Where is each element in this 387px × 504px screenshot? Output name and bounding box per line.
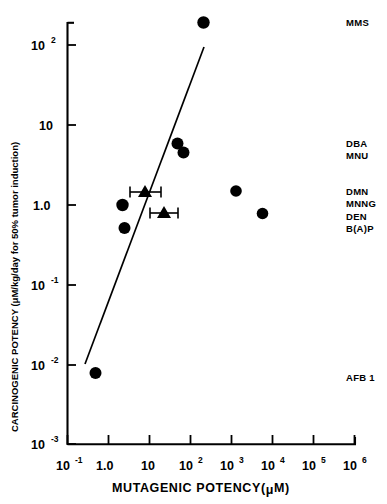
y-ticklabel-1e2: 10 2 [31,35,56,53]
data-point-afb1 [90,367,102,379]
data-point-bap [119,222,131,234]
y-ticklabel-1e-2-base: 10 [31,359,45,373]
compound-labels: MMS DBA MNU DMN MNNG DEN B(A)P AFB 1 [346,17,376,383]
x-axis-ticks [68,435,355,444]
y-ticklabel-1e-3-base: 10 [31,438,45,452]
x-axis-title: MUTAGENIC POTENCY(μM) [112,481,290,497]
compound-label-dmn: DMN [346,186,369,197]
y-axis-tick-labels: 10 2 10 1.0 10 -1 10 -2 10 -3 [31,35,59,452]
x-ticklabel-1e0-base: 1.0 [96,459,113,473]
y-ticklabel-1e-1: 10 -1 [31,275,59,293]
compound-label-afb1: AFB 1 [346,372,375,383]
x-ticklabel-1e-1-exp: -1 [75,455,83,465]
data-point-den [257,208,269,220]
x-axis-title-unit: M [274,481,285,495]
data-point-triangle-2 [157,206,171,218]
y-ticklabel-1e-1-exp: -1 [51,275,59,285]
y-axis-title: CARCINOGENIC POTENCY (μM/kg/day for 50% … [9,142,20,432]
x-ticklabel-1e2: 10 2 [179,455,203,473]
x-ticklabel-1e4-base: 10 [261,459,275,473]
x-ticklabel-1e2-exp: 2 [198,455,203,465]
x-ticklabel-1e3-base: 10 [220,459,234,473]
y-axis-title-part1: CARCINOGENIC POTENCY ( [9,303,20,432]
x-ticklabel-1e2-base: 10 [179,459,193,473]
x-axis-tick-labels: 10 -1 1.0 10 10 2 10 3 10 4 10 [56,455,367,473]
axis-frame [68,22,357,445]
x-ticklabel-1e5-exp: 5 [321,455,326,465]
y-ticklabel-1e-2: 10 -2 [31,355,59,373]
y-ticklabel-1e-3: 10 -3 [31,434,59,452]
x-ticklabel-1e5-base: 10 [302,459,316,473]
x-ticklabel-1e1-base: 10 [141,459,155,473]
y-axis-ticks [68,45,77,444]
x-ticklabel-1e5: 10 5 [302,455,326,473]
figure-scatter-plot: 10 2 10 1.0 10 -1 10 -2 10 -3 [0,0,387,504]
compound-label-mnu: MNU [346,150,369,161]
x-ticklabel-1e3: 10 3 [220,455,244,473]
y-ticklabel-1e0-base: 1.0 [33,199,50,213]
x-ticklabel-1e0: 1.0 [96,459,113,473]
y-ticklabel-1e1-base: 10 [39,119,53,133]
data-point-mnu [178,147,190,159]
x-ticklabel-1e4: 10 4 [261,455,285,473]
x-axis-title-main: MUTAGENIC POTENCY [112,481,261,495]
x-ticklabel-1e-1: 10 -1 [56,455,83,473]
plot-canvas: 10 2 10 1.0 10 -1 10 -2 10 -3 [0,0,387,504]
regression-line [85,47,204,364]
y-ticklabel-1e-1-base: 10 [31,279,45,293]
compound-label-mnng: MNNG [346,198,376,209]
compound-label-dba: DBA [346,138,367,149]
svg-text:MUTAGENIC POTENCY(μM): MUTAGENIC POTENCY(μM) [112,481,290,497]
y-ticklabel-1e-3-exp: -3 [51,434,59,444]
x-ticklabel-1e1: 10 [141,459,155,473]
x-ticklabel-1e-1-base: 10 [56,459,70,473]
y-axis-title-part2: M/kg/day for 50% tumor induction) [9,142,20,298]
x-axis-title-paren-close: ) [285,481,290,495]
y-ticklabel-1e0: 1.0 [33,199,50,213]
y-ticklabel-1e1: 10 [39,119,53,133]
svg-text:CARCINOGENIC POTENCY (μM/kg/da: CARCINOGENIC POTENCY (μM/kg/day for 50% … [9,142,20,432]
data-markers [90,16,269,379]
x-ticklabel-1e3-exp: 3 [239,455,244,465]
compound-label-den: DEN [346,211,367,222]
x-ticklabel-1e6-base: 10 [343,459,357,473]
y-ticklabel-1e2-base: 10 [31,39,45,53]
data-point-mms [197,16,209,28]
compound-label-bap: B(A)P [346,223,374,234]
y-ticklabel-1e-2-exp: -2 [51,355,59,365]
data-point-mnng [116,199,128,211]
data-point-dmn [230,185,242,197]
x-axis-title-mu: μ [266,483,274,497]
x-ticklabel-1e6: 10 6 [343,455,367,473]
x-ticklabel-1e6-exp: 6 [362,455,367,465]
error-bars [130,187,178,219]
compound-label-mms: MMS [346,17,369,28]
y-ticklabel-1e2-exp: 2 [51,35,56,45]
x-ticklabel-1e4-exp: 4 [280,455,285,465]
